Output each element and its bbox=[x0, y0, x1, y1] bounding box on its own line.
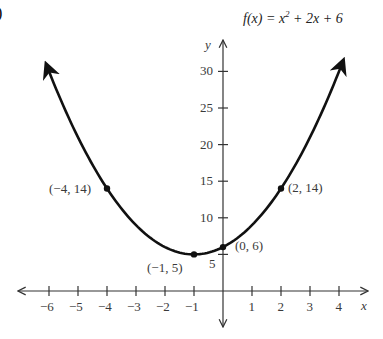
x-tick-label: −1 bbox=[185, 300, 199, 313]
x-axis-label: x bbox=[361, 299, 367, 312]
y-axis-label: y bbox=[205, 38, 211, 51]
y-tick-label: 25 bbox=[200, 101, 213, 114]
x-tick-label: −5 bbox=[69, 300, 83, 313]
y-tick-label: 30 bbox=[200, 64, 213, 77]
x-tick-label: −6 bbox=[40, 300, 54, 313]
x-tick-label: 4 bbox=[336, 300, 343, 313]
y-tick-label: 20 bbox=[200, 138, 213, 151]
x-tick-label: −2 bbox=[156, 300, 170, 313]
data-point bbox=[191, 251, 197, 257]
parabola-curve bbox=[46, 60, 343, 254]
point-label: (2, 14) bbox=[288, 181, 323, 194]
x-tick-label: −4 bbox=[98, 300, 112, 313]
x-tick-label: 3 bbox=[307, 300, 314, 313]
x-tick-label: 1 bbox=[249, 300, 256, 313]
data-point bbox=[220, 244, 226, 250]
y-tick-label: 10 bbox=[200, 211, 213, 224]
function-title: f(x) = x2 + 2x + 6 bbox=[243, 9, 343, 27]
function-plot bbox=[0, 0, 383, 339]
corner-glyph: ) bbox=[0, 4, 2, 22]
x-tick-label: −3 bbox=[127, 300, 141, 313]
data-point bbox=[104, 185, 110, 191]
point-label: (0, 6) bbox=[235, 239, 263, 252]
data-point bbox=[278, 185, 284, 191]
point-label: (−4, 14) bbox=[49, 182, 91, 195]
y-tick-label: 5 bbox=[209, 257, 216, 270]
y-tick-label: 15 bbox=[200, 174, 213, 187]
x-tick-label: 2 bbox=[278, 300, 285, 313]
point-label: (−1, 5) bbox=[147, 261, 183, 274]
